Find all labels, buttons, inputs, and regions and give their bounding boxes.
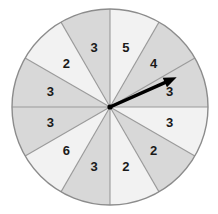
sector-label: 4 [150,56,158,71]
sector-label: 3 [47,115,54,130]
spinner-wheel-graphic: 543322363323 [0,0,218,214]
spinner-hub [107,104,112,109]
sector-label: 6 [63,143,70,158]
sector-label: 3 [90,40,97,55]
sector-label: 5 [122,40,129,55]
sector-label: 2 [122,159,129,174]
sector-label: 2 [150,143,157,158]
sector-label: 3 [90,159,97,174]
sector-label: 3 [166,115,173,130]
sector-label: 3 [47,84,54,99]
spinner-figure: 543322363323 [0,0,218,214]
sector-label: 2 [63,56,70,71]
